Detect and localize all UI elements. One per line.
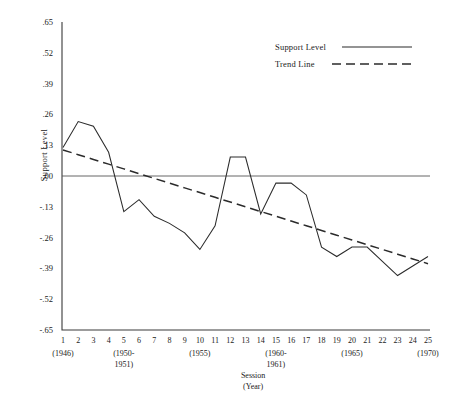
y-tick-label: .00 <box>42 171 53 181</box>
y-tick-label: -.65 <box>40 325 53 335</box>
x-tick-label: 7 <box>152 336 156 345</box>
x-tick-label: 18 <box>318 336 326 345</box>
x-tick-label: 14 <box>257 336 265 345</box>
x-tick-label: 23 <box>394 336 402 345</box>
y-tick-label: .65 <box>42 17 53 27</box>
x-tick-label: 13 <box>242 336 250 345</box>
chart-legend: Support LevelTrend Line <box>275 42 412 69</box>
x-axis-title: Session(Year) <box>241 371 265 391</box>
x-tick-label: 22 <box>378 336 386 345</box>
x-tick-label: 11 <box>211 336 219 345</box>
x-tick-label: 10 <box>196 336 204 345</box>
x-tick-label: 5 <box>122 336 126 345</box>
x-tick-label: 8 <box>167 336 171 345</box>
x-year-label: 1961) <box>267 360 286 369</box>
y-tick-label: .39 <box>42 79 53 89</box>
x-year-label: (1970) <box>417 349 439 358</box>
chart-container: Support Level .65.52.39.26.13.00-.13-.26… <box>0 0 458 402</box>
y-tick-label: .52 <box>42 48 53 58</box>
x-tick-label: 3 <box>91 336 95 345</box>
x-year-label: (1946) <box>52 349 74 358</box>
series-line-solid <box>63 122 428 276</box>
chart-svg: .65.52.39.26.13.00-.13-.26-.39-.52-.65 1… <box>0 0 458 402</box>
series-line-dashed <box>63 150 428 264</box>
x-axis-title-line2: (Year) <box>243 382 263 391</box>
x-tick-label: 2 <box>76 336 80 345</box>
legend-label: Trend Line <box>275 59 315 69</box>
y-tick-label: .13 <box>42 140 53 150</box>
x-tick-label: 19 <box>333 336 341 345</box>
x-tick-label: 4 <box>107 336 111 345</box>
y-tick-label: -.39 <box>40 263 53 273</box>
x-tick-label: 12 <box>226 336 234 345</box>
x-year-label: 1951) <box>114 360 133 369</box>
x-tick-label: 24 <box>409 336 417 345</box>
x-tick-label: 21 <box>363 336 371 345</box>
x-year-label: (1960- <box>265 349 287 358</box>
x-tick-label: 1 <box>61 336 65 345</box>
x-tick-label: 20 <box>348 336 356 345</box>
x-tick-label: 15 <box>272 336 280 345</box>
x-tick-label: 16 <box>287 336 295 345</box>
x-year-label: (1965) <box>341 349 363 358</box>
y-tick-label: .26 <box>42 109 53 119</box>
x-tick-label: 6 <box>137 336 141 345</box>
legend-label: Support Level <box>275 42 326 52</box>
y-tick-label: -.13 <box>40 202 53 212</box>
y-tick-label: -.52 <box>40 294 53 304</box>
x-axis-title-line1: Session <box>241 371 265 380</box>
x-year-label: (1950- <box>113 349 135 358</box>
y-axis-tick-labels: .65.52.39.26.13.00-.13-.26-.39-.52-.65 <box>40 17 53 335</box>
y-tick-label: -.26 <box>40 233 53 243</box>
x-tick-label: 9 <box>183 336 187 345</box>
x-axis-tick-labels: 1234567891011121314151617181920212223242… <box>61 336 432 345</box>
x-tick-label: 17 <box>302 336 310 345</box>
x-axis-year-annotations: (1946)(1950-1951)(1955)(1960-1961)(1965)… <box>52 349 439 369</box>
data-series-group <box>63 122 428 276</box>
x-year-label: (1955) <box>189 349 211 358</box>
x-tick-label: 25 <box>424 336 432 345</box>
